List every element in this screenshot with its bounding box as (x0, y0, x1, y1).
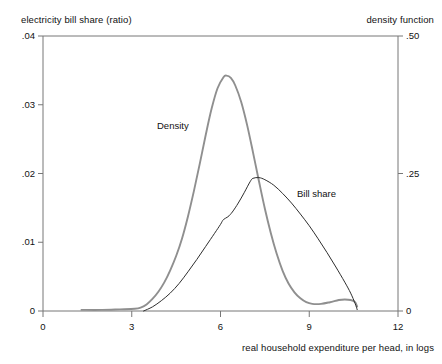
y-axis-right-tick-label: 0 (406, 305, 436, 316)
y-axis-left-tick-label: .01 (5, 236, 35, 247)
plot-frame (43, 36, 398, 311)
axis-ticks (38, 36, 403, 317)
y-axis-left-tick-label: .03 (5, 99, 35, 110)
x-axis-tick-label: 12 (383, 321, 413, 332)
plot-area (0, 0, 442, 364)
y-axis-left-tick-label: 0 (5, 305, 35, 316)
x-axis-tick-label: 0 (28, 321, 58, 332)
y-axis-right-tick-label: .25 (406, 168, 436, 179)
x-axis-tick-label: 6 (206, 321, 236, 332)
y-axis-right-tick-label: .50 (406, 30, 436, 41)
density-curve-annotation: Density (157, 120, 189, 131)
y-axis-left-tick-label: .02 (5, 168, 35, 179)
x-axis-tick-label: 9 (294, 321, 324, 332)
bill-share-curve-annotation: Bill share (297, 188, 336, 199)
y-axis-left-tick-label: .04 (5, 30, 35, 41)
x-axis-title: real household expenditure per head, in … (0, 342, 434, 353)
chart-figure: electricity bill share (ratio) density f… (0, 0, 442, 364)
x-axis-tick-label: 3 (117, 321, 147, 332)
